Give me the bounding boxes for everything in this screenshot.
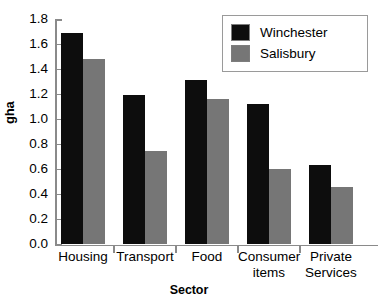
x-axis-tick-label: Food — [176, 249, 238, 265]
y-axis-line — [55, 19, 57, 246]
bar-chart: gha 1.81.61.41.21.00.80.60.40.20.0 Housi… — [0, 0, 378, 305]
y-axis-tick-label: 1.6 — [14, 37, 48, 51]
y-axis-tick-label: 0.0 — [14, 237, 48, 251]
legend-item-winchester: Winchester — [231, 22, 360, 43]
x-axis-tick-label: Housing — [52, 249, 114, 265]
legend-swatch-winchester — [231, 24, 250, 41]
y-axis-tick-mark — [55, 244, 62, 246]
x-axis-tick-label: Private Services — [300, 249, 362, 281]
bar-salisbury-transport — [145, 151, 167, 243]
bar-winchester-food — [185, 80, 207, 243]
x-axis-line — [55, 245, 378, 247]
bar-winchester-consumer-items — [247, 104, 269, 244]
y-axis-tick-label: 0.6 — [14, 162, 48, 176]
legend: WinchesterSalisbury — [222, 15, 368, 72]
x-axis-tick-label: Transport — [114, 249, 176, 265]
y-axis-tick-label: 1.4 — [14, 62, 48, 76]
bar-winchester-transport — [123, 95, 145, 243]
y-axis-tick-mark — [55, 19, 62, 21]
bar-winchester-private-services — [309, 165, 331, 244]
y-axis-tick-label: 0.4 — [14, 187, 48, 201]
legend-label: Salisbury — [260, 47, 316, 61]
legend-swatch-salisbury — [231, 45, 250, 62]
bar-salisbury-housing — [83, 59, 105, 244]
legend-item-salisbury: Salisbury — [231, 43, 360, 64]
y-axis-tick-label: 0.2 — [14, 212, 48, 226]
x-axis-title: Sector — [0, 283, 378, 297]
y-axis-tick-label: 1.0 — [14, 112, 48, 126]
bar-salisbury-food — [207, 99, 229, 244]
bar-salisbury-consumer-items — [269, 169, 291, 244]
y-axis-tick-label: 1.8 — [14, 12, 48, 26]
y-axis-tick-label: 1.2 — [14, 87, 48, 101]
bar-winchester-housing — [61, 33, 83, 244]
bar-salisbury-private-services — [331, 187, 353, 243]
x-axis-tick-label: Consumer items — [238, 249, 300, 281]
y-axis-tick-label: 0.8 — [14, 137, 48, 151]
legend-label: Winchester — [260, 26, 328, 40]
y-axis-tick-labels: 1.81.61.41.21.00.80.60.40.20.0 — [12, 0, 48, 305]
